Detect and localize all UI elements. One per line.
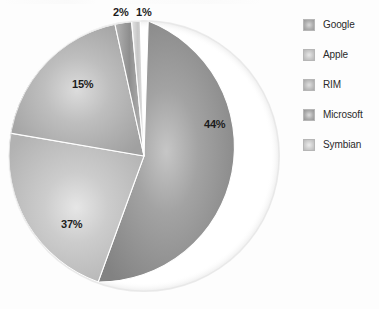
legend-label-rim: RIM <box>323 79 341 91</box>
slice-label-rim: 15% <box>72 78 93 90</box>
legend-swatch-apple <box>303 49 315 61</box>
slice-label-symbian: 1% <box>136 6 152 18</box>
legend-item-symbian[interactable]: Symbian <box>303 139 379 151</box>
legend-item-rim[interactable]: RIM <box>303 79 379 91</box>
legend-swatch-rim <box>303 79 315 91</box>
slice-label-apple: 37% <box>61 218 82 230</box>
legend-item-google[interactable]: Google <box>303 19 379 31</box>
legend-item-microsoft[interactable]: Microsoft <box>303 109 379 121</box>
legend-label-google: Google <box>323 19 355 31</box>
pie-chart-canvas <box>0 0 300 309</box>
legend-swatch-google <box>303 19 315 31</box>
legend-label-symbian: Symbian <box>323 139 361 151</box>
legend-label-apple: Apple <box>323 49 348 61</box>
legend-label-microsoft: Microsoft <box>323 109 363 121</box>
slice-label-microsoft: 2% <box>113 6 129 18</box>
legend-item-apple[interactable]: Apple <box>303 49 379 61</box>
legend-swatch-microsoft <box>303 109 315 121</box>
pie-chart: 44% 37% 15% 2% 1% <box>0 0 300 309</box>
slice-label-google: 44% <box>204 118 225 130</box>
chart-legend: Google Apple RIM Microsoft Symbian <box>303 19 379 169</box>
legend-swatch-symbian <box>303 139 315 151</box>
